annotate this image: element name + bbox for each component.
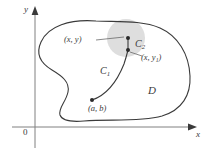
region-label: D <box>148 85 156 96</box>
curve-c1-label: C1 <box>100 66 110 78</box>
curve-c2-label-subscript: 2 <box>142 43 145 50</box>
y-axis-arrow-icon <box>32 6 39 15</box>
curve-c1-label-subscript: 1 <box>107 70 110 77</box>
start-point-dot <box>90 98 94 102</box>
y-axis-label: y <box>24 5 28 14</box>
start-point-label: (a, b) <box>88 104 106 113</box>
upper-point-label: (x, y) <box>64 35 81 44</box>
x-axis-label: x <box>196 130 200 139</box>
origin-label: 0 <box>23 128 28 137</box>
upper-point-dot <box>126 36 130 40</box>
curve-c1-label-base: C <box>100 65 107 76</box>
lower-point-label: (x, y1) <box>141 53 161 63</box>
lower-point-dot <box>126 48 130 52</box>
lower-point-label-base: (x, y <box>141 52 156 62</box>
lower-point-label-close: ) <box>159 52 162 62</box>
figure-container: y x 0 (x, y) (x, y1) (a, b) C1 C2 D <box>0 0 207 154</box>
curve-c2-label-base: C <box>135 38 142 49</box>
curve-c2-label: C2 <box>135 39 145 51</box>
